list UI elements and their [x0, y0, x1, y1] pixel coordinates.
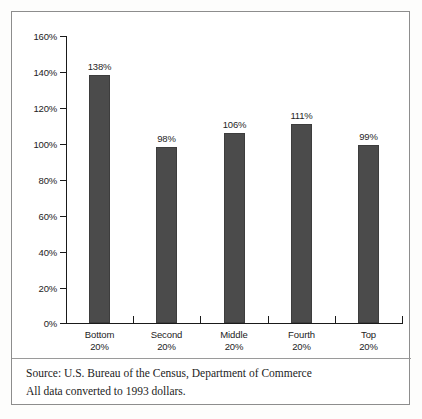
bar-value-label: 98%	[141, 133, 192, 144]
y-axis-tick	[60, 72, 67, 73]
category-line-2: 20%	[133, 341, 200, 353]
x-axis-tick	[335, 316, 336, 324]
y-axis-tick	[60, 108, 67, 109]
x-category-label-bottom-20: Bottom 20%	[66, 329, 133, 352]
y-axis-label: 20%	[12, 283, 57, 294]
y-axis-label: 0%	[12, 318, 57, 329]
y-axis-label: 100%	[12, 139, 57, 150]
y-axis-label: 60%	[12, 211, 57, 222]
x-axis-tick	[133, 316, 134, 324]
source-line-2: All data converted to 1993 dollars.	[26, 382, 396, 400]
category-line-1: Top	[335, 329, 402, 341]
x-axis-tick	[402, 316, 403, 324]
y-axis-tick	[60, 252, 67, 253]
bar-top-20	[358, 145, 379, 323]
bar-value-label: 99%	[343, 131, 394, 142]
y-axis-tick	[60, 216, 67, 217]
category-line-2: 20%	[335, 341, 402, 353]
bar-second-20	[156, 147, 177, 323]
source-line-1: Source: U.S. Bureau of the Census, Depar…	[26, 364, 396, 382]
y-axis-tick	[60, 288, 67, 289]
x-axis-tick	[268, 316, 269, 324]
x-category-label-fourth-20: Fourth 20%	[268, 329, 335, 352]
x-axis-tick	[66, 316, 67, 324]
category-line-2: 20%	[268, 341, 335, 353]
y-axis-label: 160%	[12, 31, 57, 42]
bar-fourth-20	[291, 124, 312, 323]
x-axis-tick	[200, 316, 201, 324]
figure-page: 160% 140% 120% 100% 80% 60% 40% 20% 0%	[0, 0, 422, 419]
y-axis-tick	[60, 180, 67, 181]
x-category-label-second-20: Second 20%	[133, 329, 200, 352]
bar-middle-20	[224, 133, 245, 323]
bar-value-label: 106%	[209, 119, 260, 130]
y-axis-tick	[60, 144, 67, 145]
category-line-2: 20%	[200, 341, 268, 353]
category-line-1: Middle	[200, 329, 268, 341]
source-note: Source: U.S. Bureau of the Census, Depar…	[26, 364, 396, 400]
y-axis-label: 140%	[12, 67, 57, 78]
y-axis-tick	[60, 36, 67, 37]
figure-frame: 160% 140% 120% 100% 80% 60% 40% 20% 0%	[11, 11, 410, 405]
category-line-1: Fourth	[268, 329, 335, 341]
category-line-1: Second	[133, 329, 200, 341]
x-category-label-middle-20: Middle 20%	[200, 329, 268, 352]
y-axis-label: 120%	[12, 103, 57, 114]
bar-value-label: 111%	[276, 110, 327, 121]
category-line-2: 20%	[66, 341, 133, 353]
bar-chart: 160% 140% 120% 100% 80% 60% 40% 20% 0%	[12, 12, 411, 352]
x-category-label-top-20: Top 20%	[335, 329, 402, 352]
y-axis-label: 40%	[12, 247, 57, 258]
bar-value-label: 138%	[74, 61, 125, 72]
category-line-1: Bottom	[66, 329, 133, 341]
x-axis-line	[66, 323, 403, 324]
footer-divider	[12, 358, 411, 359]
y-axis-label: 80%	[12, 175, 57, 186]
bar-bottom-20	[89, 75, 110, 323]
